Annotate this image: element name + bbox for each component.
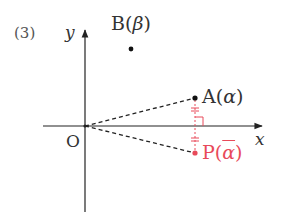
complex-plane-diagram: (3) y x O B(β) A(α) P(α) (0, 0, 288, 218)
point-B (129, 47, 134, 52)
label-P: P(α) (202, 143, 242, 162)
point-A (192, 95, 197, 100)
label-B: B(β) (111, 14, 151, 33)
point-P (192, 150, 197, 155)
origin-point (83, 124, 86, 127)
label-A: A(α) (202, 87, 243, 106)
conjugate-alpha: α (222, 141, 235, 163)
origin-label: O (66, 133, 80, 150)
segment-OA (85, 98, 195, 126)
right-angle-mark (195, 117, 203, 126)
x-axis-label: x (255, 131, 265, 148)
y-axis-label: y (65, 24, 75, 41)
problem-number: (3) (14, 26, 35, 41)
segment-OP (85, 126, 195, 153)
